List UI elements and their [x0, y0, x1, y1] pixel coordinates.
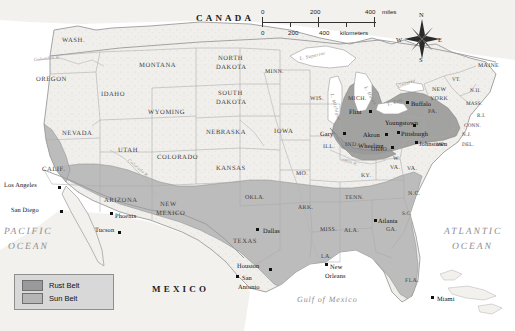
city-dot-akron — [385, 133, 388, 136]
scale-tick-km-2 — [346, 22, 347, 27]
state-label-28: MICH. — [348, 97, 367, 103]
state-label-24: LA. — [321, 255, 331, 261]
scale-tick-mid — [318, 17, 319, 27]
thematic-map: 0 200 400 miles 0 200 400 kilometers N E… — [0, 0, 515, 331]
state-label-43: YORK — [430, 97, 448, 103]
scale-bar: 0 200 400 miles 0 200 400 kilometers — [262, 8, 390, 42]
city-label-akron: Akron — [363, 133, 380, 139]
state-label-23: ARK. — [298, 206, 313, 212]
city-dot-wheeling — [391, 146, 394, 149]
scale-miles-400: 400 — [365, 8, 375, 15]
state-label-27: IND. — [345, 143, 358, 149]
city-dot-tucson — [118, 231, 121, 234]
state-label-4: WYOMING — [148, 110, 185, 117]
city-label-antonio: Antonio — [238, 285, 260, 291]
legend-label-sun-belt: Sun Belt — [49, 294, 77, 303]
country-label-canada: CANADA — [196, 14, 254, 23]
city-dot-youngstown — [413, 124, 416, 127]
state-label-37: N.C. — [408, 192, 421, 198]
legend-swatch-sun-belt — [22, 293, 43, 304]
state-label-33: ALA. — [344, 229, 359, 235]
city-dot-atlanta — [374, 219, 377, 222]
state-label-30: KY. — [361, 174, 371, 180]
state-label-51: VT. — [452, 78, 460, 83]
state-label-26: ILL. — [323, 145, 335, 151]
city-label-houston: Houston — [237, 264, 259, 270]
city-label-wheeling: Wheeling — [358, 144, 384, 150]
state-label-34: GA. — [386, 228, 397, 234]
state-label-8: CALIF. — [42, 167, 65, 174]
state-label-14: SOUTH — [218, 91, 243, 98]
state-label-17: KANSAS — [216, 166, 246, 173]
state-label-21: IOWA — [274, 129, 293, 136]
city-label-san-diego: San Diego — [11, 208, 63, 214]
compass-north: N — [419, 11, 424, 18]
state-label-35: FLA. — [405, 279, 419, 285]
ocean-label-2: ATLANTIC — [444, 228, 502, 238]
legend-swatch-rust-belt — [22, 280, 43, 291]
state-label-18: OKLA. — [245, 196, 265, 202]
city-dot-phoenix — [110, 212, 113, 215]
state-label-41: PA. — [428, 110, 438, 116]
city-dot-san-diego — [60, 210, 63, 213]
city-dot-new — [325, 263, 328, 266]
city-label-gary: Gary — [320, 132, 333, 138]
city-dot-johnstown — [415, 141, 418, 144]
state-label-45: DEL. — [462, 143, 474, 148]
scale-tick-end — [374, 17, 375, 27]
city-dot-san — [236, 275, 239, 278]
scale-miles-200: 200 — [310, 8, 320, 15]
country-label-mexico: MEXICO — [152, 285, 209, 294]
city-dot-buffalo — [406, 101, 409, 104]
city-label-phoenix: Phoenix — [115, 214, 137, 220]
state-label-0: WASH. — [62, 38, 85, 45]
state-label-50: N.H. — [470, 89, 481, 94]
state-label-13: DAKOTA — [216, 65, 247, 72]
legend-label-rust-belt: Rust Belt — [49, 281, 79, 290]
state-label-36: S.C. — [402, 212, 412, 217]
scale-km-unit: kilometers — [340, 29, 368, 36]
ocean-label-1: OCEAN — [8, 243, 49, 253]
legend-item-rust-belt[interactable]: Rust Belt — [22, 280, 79, 291]
city-label-miami: Miami — [437, 297, 455, 303]
state-label-12: NORTH — [218, 56, 243, 63]
compass-rose: N E S W — [396, 9, 448, 65]
ocean-label-3: OCEAN — [452, 243, 493, 253]
city-dot-houston — [269, 268, 272, 271]
legend-item-sun-belt[interactable]: Sun Belt — [22, 293, 77, 304]
scale-miles-0: 0 — [261, 8, 264, 15]
scale-tick-0 — [262, 17, 263, 27]
city-label-johnstown: Johnstown — [419, 142, 447, 148]
city-label-orleans: Orleans — [325, 274, 346, 280]
compass-south: S — [419, 56, 423, 63]
city-label-san: San — [242, 276, 252, 282]
state-label-49: MASS. — [466, 102, 482, 107]
city-label-pittsburgh: Pittsburgh — [401, 132, 428, 138]
scale-km-200: 200 — [288, 29, 298, 36]
state-label-47: CONN. — [464, 124, 481, 129]
state-label-39: W. — [393, 157, 400, 163]
city-label-atlanta: Atlanta — [378, 219, 398, 225]
state-label-10: NEW — [160, 202, 177, 209]
state-label-22: MO. — [296, 172, 308, 178]
state-label-38: VA. — [407, 167, 417, 173]
state-label-9: ARIZONA — [104, 198, 138, 205]
city-dot-miami — [431, 296, 434, 299]
state-label-19: TEXAS — [233, 239, 257, 246]
state-label-40: VA. — [390, 166, 400, 172]
compass-east: E — [438, 36, 442, 43]
scale-miles-unit: miles — [382, 8, 396, 15]
gulf-label: Gulf of Mexico — [297, 296, 358, 304]
state-label-52: MAINE — [478, 64, 499, 70]
state-label-1: OREGON — [36, 77, 67, 84]
state-label-42: NEW — [432, 88, 446, 94]
city-dot-los-angeles — [58, 186, 61, 189]
state-label-3: MONTANA — [139, 63, 176, 70]
state-label-20: MINN. — [265, 70, 284, 76]
state-label-31: TENN. — [345, 196, 364, 202]
city-dot-gary — [343, 132, 346, 135]
state-label-11: MEXICO — [156, 211, 185, 218]
state-label-16: NEBRASKA — [206, 130, 246, 137]
city-dot-flint — [369, 110, 372, 113]
scale-tick-km-1 — [290, 22, 291, 27]
